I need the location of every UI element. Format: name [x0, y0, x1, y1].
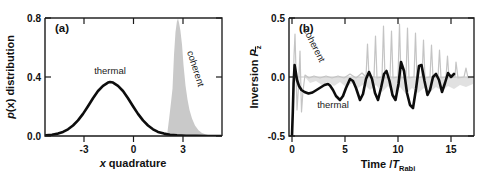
panel-b-y-axis-title-rest: Inversion [248, 57, 260, 109]
panel-b-xtick-2: 10 [392, 144, 404, 155]
panel-b-x-axis-title-sub: Rabi [399, 164, 415, 173]
panel-b-xtick-0: 0 [289, 144, 295, 155]
panel-a-ytick-0: 0.0 [27, 131, 41, 142]
panel-a-y-axis-title-x: (x) [4, 98, 16, 112]
panel-a-xtick-0: -3 [80, 144, 89, 155]
panel-b-x-axis-title-rest: Time / [361, 158, 393, 170]
panel-b-ytick-0: -0.5 [268, 131, 286, 142]
panel-b-y-axis-title-sub: z [254, 45, 263, 49]
panel-b-xtick-3: 15 [445, 144, 457, 155]
panel-b-thermal-label: thermal [317, 99, 349, 110]
panel-a-xtick-1: 0 [131, 144, 137, 155]
panel-a-ytick-1: 0.4 [27, 72, 41, 83]
panel-a-label: (a) [55, 22, 69, 34]
panel-a-y-axis-title-rest: distribution [4, 35, 16, 99]
panel-b-xtick-1: 5 [342, 144, 348, 155]
panel-b-ytick-1: 0.0 [271, 72, 285, 83]
panel-a-thermal-label: thermal [94, 65, 126, 76]
panel-a-x-axis-title-rest: quadrature [106, 157, 167, 169]
panel-a-y-axis-title: p(x) distribution [4, 35, 16, 120]
panel-b-ytick-2: 0.5 [271, 13, 285, 24]
two-panel-quantum-figure: 0.0 0.4 0.8 -3 0 3 x quadrature p(x) dis… [0, 0, 488, 172]
panel-a-xtick-2: 3 [180, 144, 186, 155]
panel-a-ytick-2: 0.8 [27, 13, 41, 24]
figure-container: 0.0 0.4 0.8 -3 0 3 x quadrature p(x) dis… [0, 0, 488, 172]
panel-a-x-axis-title: x quadrature [99, 157, 167, 169]
